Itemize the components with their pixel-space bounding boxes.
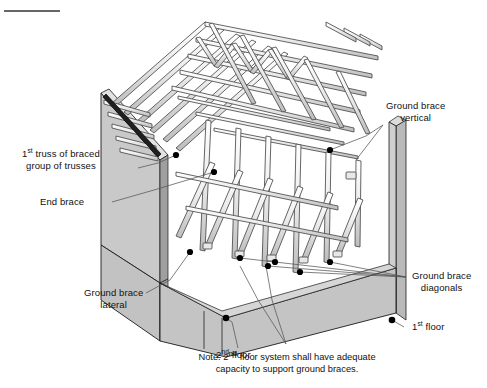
label-end-brace: End brace bbox=[40, 196, 84, 208]
label-ground-brace-vertical: Ground brace vertical bbox=[386, 100, 445, 123]
rafter-tails bbox=[326, 22, 382, 50]
label-first-truss: 1st truss of braced group of trusses bbox=[22, 148, 100, 171]
label-ground-brace-lateral: Ground brace lateral bbox=[84, 287, 143, 310]
figure-canvas: 1st truss of braced group of trusses End… bbox=[0, 0, 487, 388]
label-first-floor: 1st floor bbox=[412, 321, 444, 333]
note-text: Note: 2nd floor system shall have adequa… bbox=[198, 348, 375, 375]
label-ground-brace-diagonals: Ground brace diagonals bbox=[412, 270, 471, 293]
ground-floor-slab bbox=[160, 268, 396, 357]
